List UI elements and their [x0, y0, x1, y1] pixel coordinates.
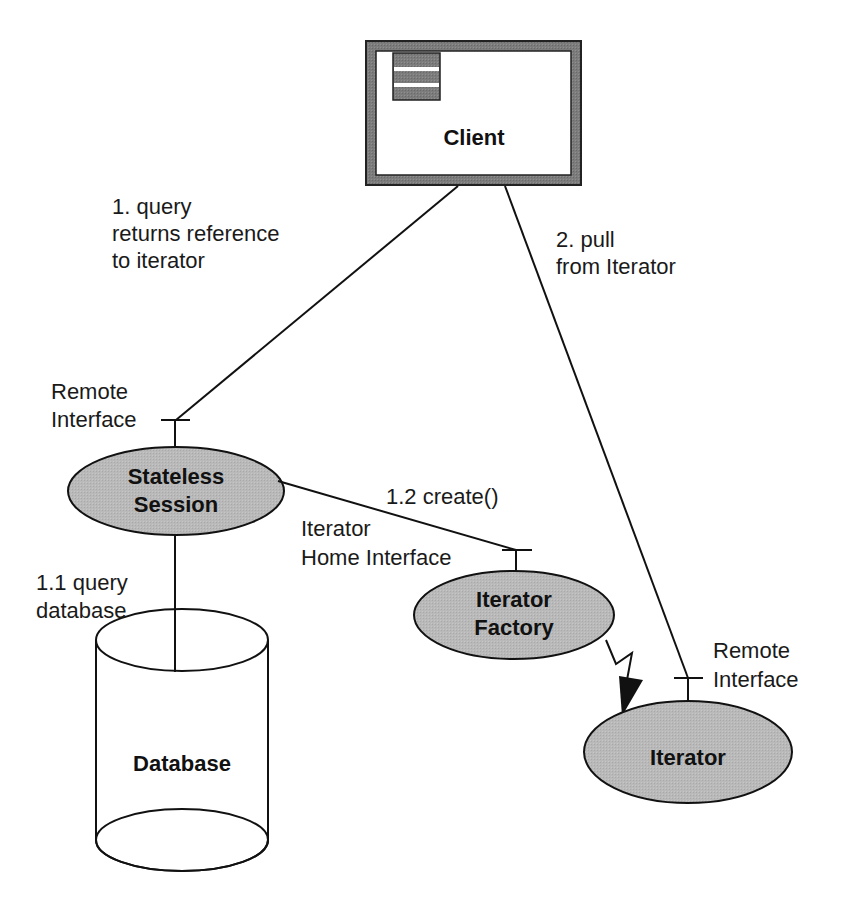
iterator-remote-line1: Remote [713, 636, 799, 665]
session-remote-interface-label: Remote Interface [51, 378, 137, 434]
client-label: Client [414, 124, 534, 152]
pull-label-line2: from Iterator [556, 253, 676, 280]
stateless-session-line1: Stateless [96, 463, 256, 491]
iterator-home-interface-stub [502, 550, 532, 572]
home-interface-line2: Home Interface [301, 543, 451, 572]
stateless-session-label: Stateless Session [96, 463, 256, 519]
iterator-factory-line1: Iterator [434, 586, 594, 614]
query-db-line2: database [36, 597, 128, 625]
iterator-remote-interface-stub [674, 678, 703, 701]
query-label-line3: to iterator [112, 247, 280, 274]
query-db-label: 1.1 query database [36, 569, 128, 625]
iterator-label: Iterator [608, 744, 768, 772]
session-remote-interface-stub [161, 420, 190, 448]
query-label: 1. query returns reference to iterator [112, 193, 280, 274]
query-label-line1: 1. query [112, 193, 280, 220]
database-node [96, 609, 268, 871]
stateless-session-line2: Session [96, 491, 256, 519]
creates-lightning-arrow [606, 640, 643, 716]
pull-label-line1: 2. pull [556, 226, 676, 253]
client-node [366, 41, 581, 185]
database-label: Database [102, 750, 262, 778]
query-db-line1: 1.1 query [36, 569, 128, 597]
query-label-line2: returns reference [112, 220, 280, 247]
iterator-factory-label: Iterator Factory [434, 586, 594, 642]
iterator-remote-line2: Interface [713, 665, 799, 694]
session-remote-line2: Interface [51, 406, 137, 434]
iterator-remote-interface-label: Remote Interface [713, 636, 799, 694]
create-label: 1.2 create() [386, 484, 499, 510]
home-interface-line1: Iterator [301, 514, 451, 543]
session-remote-line1: Remote [51, 378, 137, 406]
menu-icon [393, 53, 440, 100]
pull-label: 2. pull from Iterator [556, 226, 676, 280]
iterator-factory-line2: Factory [434, 614, 594, 642]
home-interface-label: Iterator Home Interface [301, 514, 451, 572]
